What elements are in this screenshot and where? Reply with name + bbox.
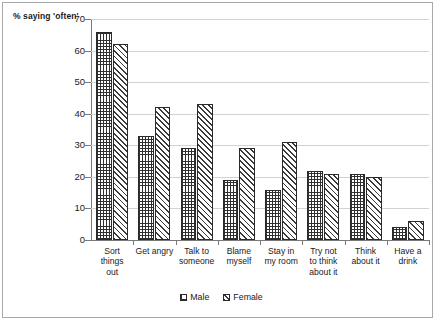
y-tick-40 <box>85 114 91 115</box>
bar-female-6 <box>366 177 382 240</box>
bar-female-1 <box>155 107 171 240</box>
y-tick-30 <box>85 145 91 146</box>
gridline-50 <box>91 82 429 83</box>
bar-male-3 <box>223 180 239 240</box>
bar-male-2 <box>181 148 197 240</box>
category-label-line: things <box>87 256 137 266</box>
bar-female-4 <box>282 142 298 240</box>
y-tick-label-40: 40 <box>45 108 85 119</box>
legend-label: Female <box>233 292 262 302</box>
gridline-70 <box>91 19 429 20</box>
bar-male-4 <box>265 190 281 241</box>
legend-item-male[interactable]: Male <box>180 292 209 302</box>
y-tick-70 <box>85 19 91 20</box>
x-tick-2 <box>218 240 219 245</box>
y-tick-label-70: 70 <box>45 13 85 24</box>
y-tick-label-20: 20 <box>45 171 85 182</box>
x-tick-6 <box>387 240 388 245</box>
chart-frame: % saying 'often' 010203040506070 Sortthi… <box>2 2 433 318</box>
bar-female-5 <box>324 174 340 240</box>
chart-legend: MaleFemale <box>3 292 437 302</box>
category-label-line: about it <box>298 267 348 277</box>
bar-female-2 <box>197 104 213 240</box>
y-tick-label-50: 50 <box>45 76 85 87</box>
bar-male-7 <box>392 227 408 240</box>
legend-swatch-male-icon <box>180 294 187 301</box>
y-tick-20 <box>85 177 91 178</box>
x-tick-5 <box>345 240 346 245</box>
gridline-60 <box>91 51 429 52</box>
y-tick-50 <box>85 82 91 83</box>
x-tick-4 <box>302 240 303 245</box>
category-label-line: drink <box>383 256 433 266</box>
x-tick-3 <box>260 240 261 245</box>
x-tick-0 <box>133 240 134 245</box>
y-tick-60 <box>85 51 91 52</box>
plot-area: 010203040506070 <box>91 19 429 240</box>
category-label-7: Have adrink <box>383 246 433 267</box>
bar-male-6 <box>350 174 366 240</box>
bar-male-5 <box>307 171 323 240</box>
bar-female-7 <box>408 221 424 240</box>
legend-item-female[interactable]: Female <box>223 292 262 302</box>
y-tick-label-60: 60 <box>45 45 85 56</box>
category-label-line: Have a <box>383 246 433 256</box>
y-tick-0 <box>85 240 91 241</box>
y-tick-10 <box>85 208 91 209</box>
legend-swatch-female-icon <box>223 294 230 301</box>
gridline-40 <box>91 114 429 115</box>
bar-male-1 <box>138 136 154 240</box>
bar-female-3 <box>239 148 255 240</box>
bar-female-0 <box>113 44 129 240</box>
bar-male-0 <box>96 32 112 240</box>
x-tick-7 <box>429 240 430 245</box>
legend-label: Male <box>190 292 209 302</box>
y-tick-label-30: 30 <box>45 139 85 150</box>
y-tick-label-0: 0 <box>45 234 85 245</box>
category-label-line: out <box>87 267 137 277</box>
y-tick-label-10: 10 <box>45 202 85 213</box>
x-tick-1 <box>176 240 177 245</box>
